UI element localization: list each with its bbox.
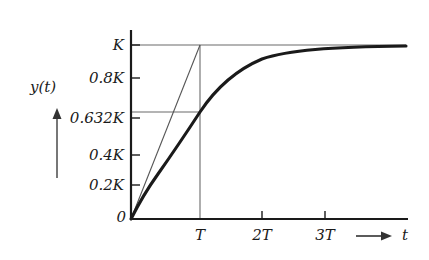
x-tick-label-t: T — [195, 228, 205, 243]
series-initial-tangent — [131, 45, 200, 219]
y-tick-label-0632k: 0.632K — [0, 111, 124, 126]
y-axis-label: y(t) — [30, 80, 56, 95]
x-axis-label: t — [402, 228, 408, 243]
y-tick-label-k: K — [0, 38, 124, 53]
series-step-response — [131, 46, 406, 219]
origin-label: 0 — [116, 210, 126, 225]
x-axis-arrow-icon — [356, 232, 392, 241]
x-tick-label-3t: 3T — [315, 228, 335, 243]
y-tick-label-02k: 0.2K — [0, 178, 124, 193]
y-tick-label-08k: 0.8K — [0, 71, 124, 86]
figure-step-response: K 0.8K 0.632K 0.4K 0.2K 0 T 2T 3T y(t) t — [0, 0, 429, 260]
x-tick-label-2t: 2T — [252, 228, 272, 243]
y-tick-label-04k: 0.4K — [0, 148, 124, 163]
